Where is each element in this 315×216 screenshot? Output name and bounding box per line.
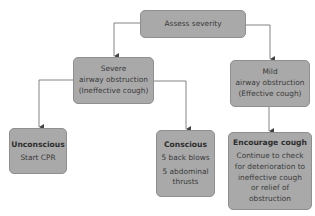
node-label: airway obstruction [236,78,305,89]
node-label: (Effective cough) [238,89,301,100]
node-label: Mild [262,67,277,78]
node-label: Continue to check [237,151,304,162]
node-title: Encourage cough [233,137,307,148]
node-conscious: Conscious 5 back blows 5 abdominal thrus… [156,130,215,197]
node-label: ineffective cough [238,173,302,184]
node-label: obstruction [249,194,291,205]
node-title: Conscious [164,139,207,150]
node-label: thrusts [173,177,199,188]
node-label: (Ineffective cough) [79,86,149,97]
node-label: for deterioration to [235,162,305,173]
node-label: Assess severity [164,19,221,30]
node-title: Unconscious [11,139,64,150]
node-label: Start CPR [20,153,55,164]
node-label: 5 abdominal [162,167,208,178]
node-label: or relief of [251,183,289,194]
node-label: airway obstruction [79,75,148,86]
node-assess-severity: Assess severity [140,10,246,38]
node-encourage-cough: Encourage cough Continue to check for de… [228,132,312,210]
node-severe-obstruction: Severe airway obstruction (Ineffective c… [73,57,154,104]
node-label: 5 back blows [161,153,209,164]
node-unconscious: Unconscious Start CPR [9,128,67,174]
node-label: Severe [101,64,127,75]
node-mild-obstruction: Mild airway obstruction (Effective cough… [230,60,310,107]
